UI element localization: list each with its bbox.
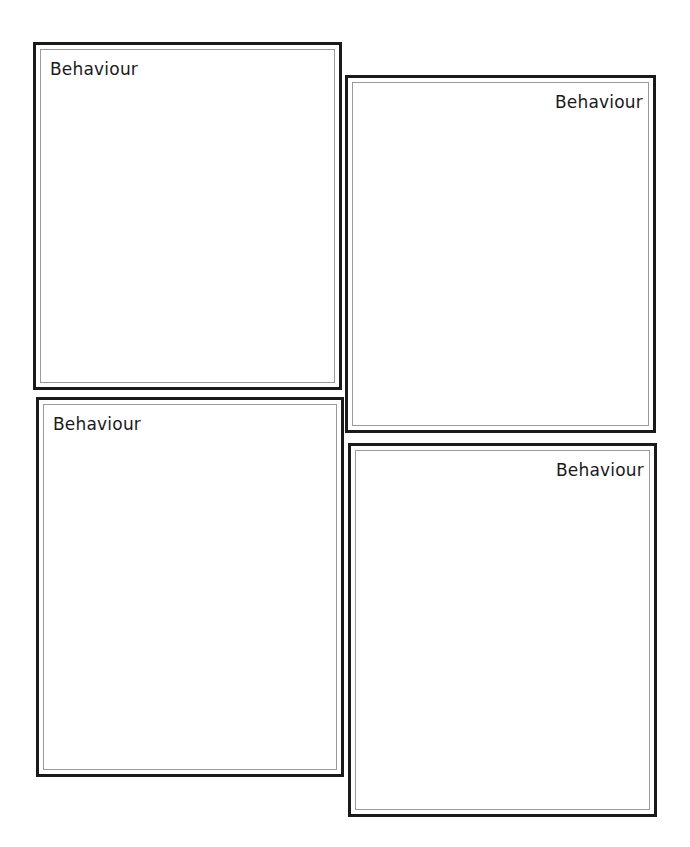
panel-inner-frame	[355, 450, 650, 810]
behaviour-panel-4: Behaviour	[348, 443, 657, 817]
panel-inner-frame	[40, 49, 335, 383]
panel-label: Behaviour	[555, 92, 643, 112]
behaviour-panel-3: Behaviour	[36, 397, 344, 777]
panel-inner-frame	[352, 82, 649, 426]
panel-label: Behaviour	[556, 460, 644, 480]
behaviour-panel-1: Behaviour	[33, 42, 342, 390]
panel-label: Behaviour	[50, 59, 138, 79]
panel-label: Behaviour	[53, 414, 141, 434]
behaviour-panel-2: Behaviour	[345, 75, 656, 433]
panel-inner-frame	[43, 404, 337, 770]
